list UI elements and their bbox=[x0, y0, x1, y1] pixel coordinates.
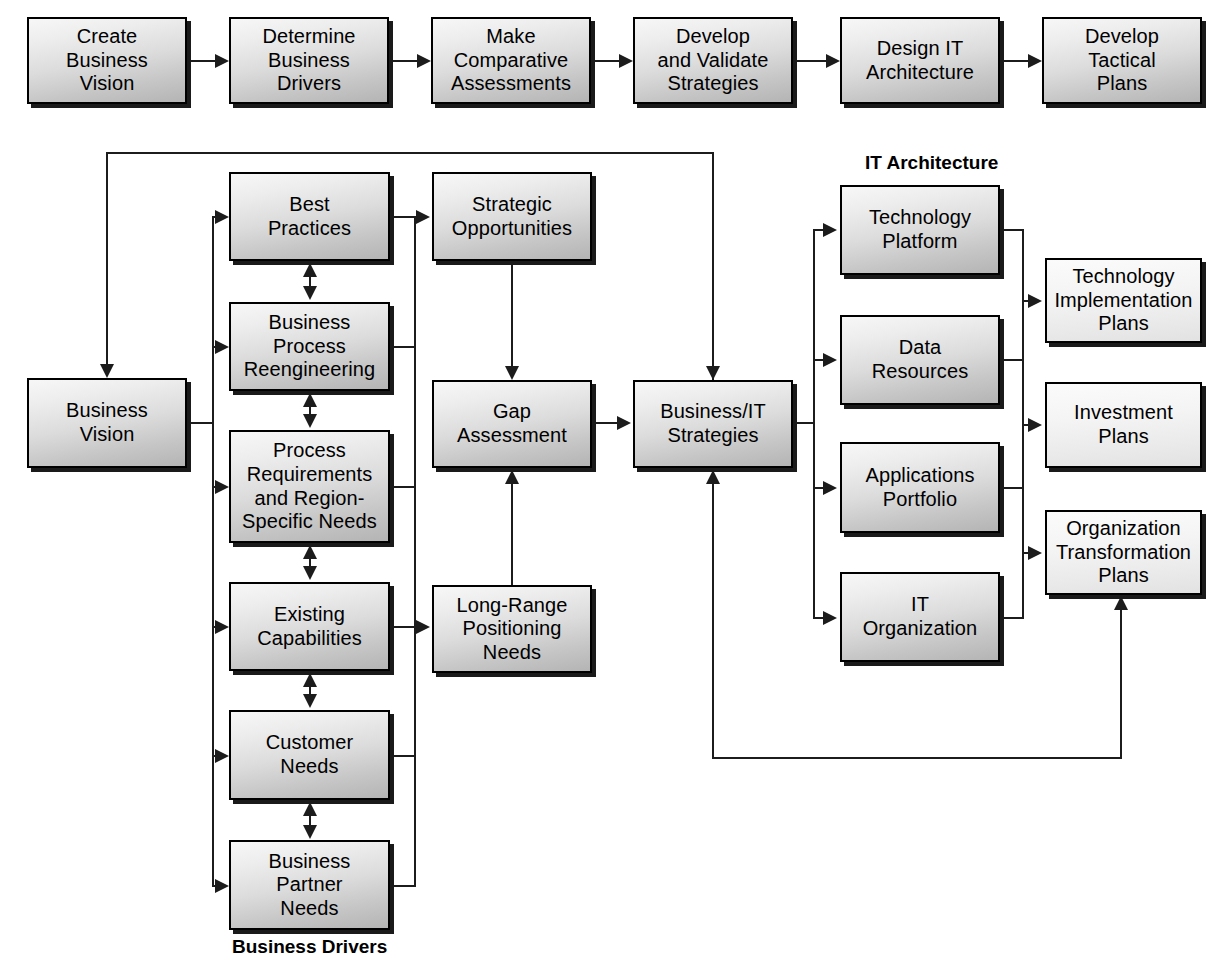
connector-existing-capabilities-to-long-range bbox=[392, 626, 418, 628]
arrowhead-top-5 bbox=[1028, 54, 1042, 68]
process-box-label: ApplicationsPortfolio bbox=[846, 464, 994, 511]
connector-technology-platform-right-stub bbox=[1002, 229, 1024, 231]
arrowhead-to-customer-needs bbox=[215, 749, 229, 763]
connector-bottom-feedback-horizontal bbox=[712, 757, 1122, 759]
process-box-technology-implementation-plans[interactable]: TechnologyImplementationPlans bbox=[1045, 258, 1202, 343]
arrowhead-to-applications-portfolio bbox=[823, 481, 837, 495]
process-box-label: InvestmentPlans bbox=[1051, 401, 1196, 448]
arrowhead-bidir-cn-bpn-up bbox=[303, 802, 317, 816]
process-box-business-vision[interactable]: BusinessVision bbox=[27, 378, 187, 468]
process-box-it-organization[interactable]: ITOrganization bbox=[840, 572, 1000, 662]
process-box-label: BusinessProcessReengineering bbox=[235, 311, 384, 382]
process-box-label: Business/ITStrategies bbox=[639, 400, 787, 447]
connector-vision-bus bbox=[212, 216, 214, 885]
arrowhead-to-technology-platform bbox=[823, 223, 837, 237]
caption-business-drivers: Business Drivers bbox=[232, 936, 387, 958]
connector-pr-right-stub bbox=[392, 486, 416, 488]
connector-customer-right-stub bbox=[392, 755, 416, 757]
connector-bpr-right-stub bbox=[392, 346, 416, 348]
process-box-design-it-architecture[interactable]: Design ITArchitecture bbox=[840, 17, 1000, 104]
arrowhead-bidir-ec-cn-down bbox=[303, 694, 317, 708]
process-box-existing-capabilities[interactable]: ExistingCapabilities bbox=[229, 582, 390, 671]
process-box-business-it-strategies[interactable]: Business/ITStrategies bbox=[633, 380, 793, 468]
arrowhead-to-strategic-opportunities bbox=[416, 210, 430, 224]
process-box-customer-needs[interactable]: CustomerNeeds bbox=[229, 710, 390, 800]
connector-it-organization-right-stub bbox=[1002, 617, 1024, 619]
connector-bottom-feedback-left-vertical bbox=[712, 470, 714, 759]
arrowhead-to-organization-transformation-plans bbox=[1028, 546, 1042, 560]
arrowhead-feedback-into-business-it-strategies bbox=[706, 366, 720, 380]
arrowhead-to-it-organization bbox=[823, 611, 837, 625]
process-box-label: GapAssessment bbox=[438, 400, 586, 447]
process-box-label: StrategicOpportunities bbox=[438, 193, 586, 240]
process-box-determine-business-drivers[interactable]: DetermineBusinessDrivers bbox=[229, 17, 389, 104]
connector-it-arch-distribution-bus bbox=[813, 229, 815, 618]
process-box-organization-transformation-plans[interactable]: OrganizationTransformationPlans bbox=[1045, 510, 1202, 595]
process-box-label: Long-RangePositioningNeeds bbox=[438, 594, 586, 665]
process-box-label: MakeComparativeAssessments bbox=[437, 25, 585, 96]
process-box-label: CreateBusinessVision bbox=[33, 25, 181, 96]
arrowhead-bidir-bpr-pr-down bbox=[303, 414, 317, 428]
process-box-gap-assessment[interactable]: GapAssessment bbox=[432, 380, 592, 468]
process-box-make-comparative-assessments[interactable]: MakeComparativeAssessments bbox=[431, 17, 591, 104]
connector-bottom-feedback-right-vertical bbox=[1120, 610, 1122, 758]
process-box-create-business-vision[interactable]: CreateBusinessVision bbox=[27, 17, 187, 104]
process-box-label: BestPractices bbox=[235, 193, 384, 240]
arrowhead-to-business-it-strategies bbox=[617, 416, 631, 430]
connector-gap-to-strategies bbox=[594, 422, 619, 424]
arrowhead-to-existing-capabilities bbox=[215, 620, 229, 634]
process-box-label: DetermineBusinessDrivers bbox=[235, 25, 383, 96]
connector-data-resources-right-stub bbox=[1002, 359, 1024, 361]
arrowhead-bidir-ec-cn-up bbox=[303, 673, 317, 687]
process-box-label: OrganizationTransformationPlans bbox=[1051, 517, 1196, 588]
process-box-label: BusinessPartnerNeeds bbox=[235, 850, 384, 921]
arrowhead-to-technology-implementation-plans bbox=[1028, 294, 1042, 308]
process-box-label: ExistingCapabilities bbox=[235, 603, 384, 650]
arrowhead-top-3 bbox=[619, 54, 633, 68]
arrowhead-to-long-range bbox=[416, 620, 430, 634]
arrowhead-to-best-practices bbox=[215, 210, 229, 224]
diagram-canvas: CreateBusinessVision DetermineBusinessDr… bbox=[0, 0, 1223, 972]
connector-strategic-opportunities-to-gap bbox=[511, 263, 513, 368]
process-box-strategic-opportunities[interactable]: StrategicOpportunities bbox=[432, 172, 592, 261]
connector-strategies-out bbox=[795, 422, 815, 424]
arrowhead-bidir-bpr-pr-up bbox=[303, 393, 317, 407]
process-box-best-practices[interactable]: BestPractices bbox=[229, 172, 390, 261]
connector-partner-right-stub bbox=[392, 885, 416, 887]
process-box-label: TechnologyImplementationPlans bbox=[1051, 265, 1196, 336]
process-box-label: ProcessRequirementsand Region-Specific N… bbox=[235, 439, 384, 533]
connector-top-5 bbox=[1004, 60, 1030, 62]
process-box-applications-portfolio[interactable]: ApplicationsPortfolio bbox=[840, 442, 1000, 533]
connector-drivers-collector-bus bbox=[414, 216, 416, 887]
connector-feedback-top-horizontal bbox=[106, 152, 714, 154]
arrowhead-bottom-feedback-into-org-plans bbox=[1114, 596, 1128, 610]
process-box-label: CustomerNeeds bbox=[235, 731, 384, 778]
arrowhead-bidir-cn-bpn-down bbox=[303, 825, 317, 839]
connector-feedback-top-vertical-right bbox=[712, 152, 714, 382]
process-box-develop-and-validate-strategies[interactable]: Developand ValidateStrategies bbox=[633, 17, 793, 104]
caption-it-architecture: IT Architecture bbox=[865, 152, 998, 174]
arrowhead-to-process-requirements bbox=[215, 480, 229, 494]
arrowhead-feedback-into-business-vision bbox=[100, 364, 114, 378]
process-box-data-resources[interactable]: DataResources bbox=[840, 315, 1000, 405]
connector-top-2 bbox=[393, 60, 419, 62]
arrowhead-bidir-bp-bpr-up bbox=[303, 263, 317, 277]
process-box-label: ITOrganization bbox=[846, 593, 994, 640]
process-box-long-range-positioning-needs[interactable]: Long-RangePositioningNeeds bbox=[432, 585, 592, 673]
process-box-business-process-reengineering[interactable]: BusinessProcessReengineering bbox=[229, 302, 390, 391]
arrowhead-bidir-pr-ec-up bbox=[303, 545, 317, 559]
arrowhead-to-data-resources bbox=[823, 353, 837, 367]
arrowhead-top-4 bbox=[826, 54, 840, 68]
process-box-investment-plans[interactable]: InvestmentPlans bbox=[1045, 382, 1202, 468]
arrowhead-bidir-bp-bpr-down bbox=[303, 286, 317, 300]
process-box-technology-platform[interactable]: TechnologyPlatform bbox=[840, 185, 1000, 275]
process-box-process-requirements-and-region-specific-needs[interactable]: ProcessRequirementsand Region-Specific N… bbox=[229, 430, 390, 543]
process-box-develop-tactical-plans[interactable]: DevelopTacticalPlans bbox=[1042, 17, 1202, 104]
process-box-label: TechnologyPlatform bbox=[846, 206, 994, 253]
connector-top-1 bbox=[191, 60, 217, 62]
arrowhead-bidir-pr-ec-down bbox=[303, 566, 317, 580]
connector-applications-portfolio-right-stub bbox=[1002, 487, 1024, 489]
process-box-label: DataResources bbox=[846, 336, 994, 383]
process-box-label: BusinessVision bbox=[33, 399, 181, 446]
process-box-business-partner-needs[interactable]: BusinessPartnerNeeds bbox=[229, 840, 390, 930]
